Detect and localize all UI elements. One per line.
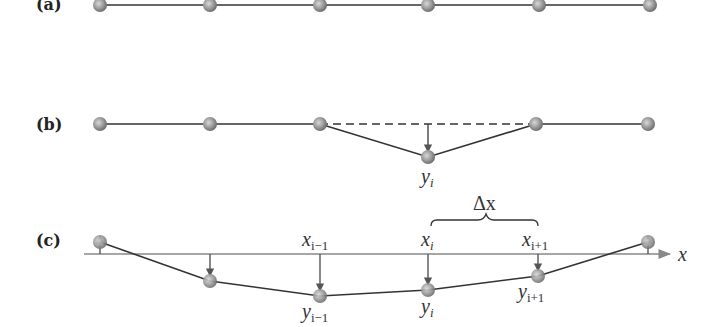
mass-node [421, 150, 435, 164]
mass-node [313, 0, 327, 12]
y-i-label: yi [419, 165, 434, 190]
y-i-minus-1-label: yi−1 [300, 300, 328, 325]
mass-node [313, 117, 327, 131]
mass-node [93, 0, 107, 12]
panel-a: (a) [36, 0, 657, 14]
mass-node [529, 117, 543, 131]
y-i-label: yi [419, 295, 434, 320]
mass-node [532, 0, 546, 12]
panel-b-label: (b) [36, 115, 62, 134]
mass-node [421, 0, 435, 12]
panel-a-label: (a) [36, 0, 62, 14]
mass-node [93, 235, 107, 249]
mass-node [641, 117, 655, 131]
x-i-label: xi [420, 228, 434, 253]
mass-node [641, 235, 655, 249]
mass-node [531, 269, 545, 283]
mass-node [203, 0, 217, 12]
x-i-plus-1-label: xi+1 [521, 228, 548, 253]
panel-b: (b) yi [36, 115, 655, 190]
panel-c-label: (c) [36, 231, 61, 250]
x-axis-label: x [677, 243, 687, 265]
displaced-string [100, 242, 648, 296]
delta-x-brace-icon [431, 214, 538, 226]
y-i-plus-1-label: yi+1 [516, 280, 544, 305]
mass-node [93, 117, 107, 131]
mass-node [203, 117, 217, 131]
mass-nodes [93, 0, 657, 12]
mass-node [203, 274, 217, 288]
string-discretization-diagram: (a) (b) yi (c) x [0, 0, 725, 327]
panel-c: (c) x Δx xi−1 xi xi+1 yi−1 yi yi+1 [36, 192, 687, 325]
mass-node [643, 0, 657, 12]
x-i-minus-1-label: xi−1 [301, 228, 328, 253]
mass-node [313, 289, 327, 303]
delta-x-label: Δx [473, 192, 496, 214]
